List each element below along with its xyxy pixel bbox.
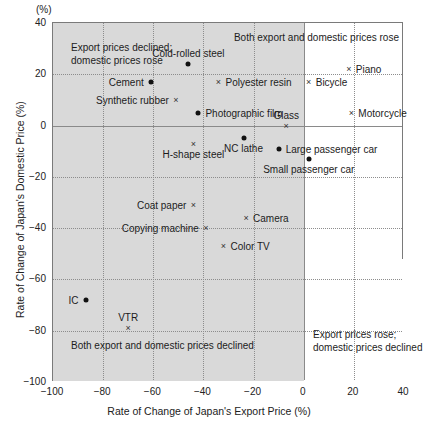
data-point-marker: ×	[242, 214, 250, 222]
x-axis-title: Rate of Change of Japan's Export Price (…	[0, 405, 418, 417]
data-point-label: H-shape steel	[163, 149, 225, 160]
data-point-marker: ×	[305, 78, 313, 86]
data-point-label: Motorcycle	[358, 107, 406, 118]
quadrant-note-line: domestic prices rose	[71, 54, 172, 67]
y-gridline	[53, 74, 402, 75]
x-gridline	[103, 23, 104, 380]
data-point-marker: ×	[124, 324, 132, 332]
y-axis-unit-label: (%)	[36, 4, 52, 15]
quadrant-note-bottom-left: Both export and domestic prices declined	[71, 339, 254, 352]
y-tick-label: 0	[6, 119, 46, 130]
data-point-marker	[241, 136, 246, 141]
data-point-label: Glass	[273, 110, 299, 121]
quadrant-note-line: Export prices declined;	[71, 41, 172, 54]
data-point-marker: ×	[347, 109, 355, 117]
x-tick-label: −60	[144, 386, 161, 397]
y-tick-label: −40	[6, 222, 46, 233]
y-tick-label: −20	[6, 170, 46, 181]
data-point-label: Color TV	[230, 241, 269, 252]
x-tick-label: −100	[41, 386, 64, 397]
data-point-marker	[186, 62, 191, 67]
data-point-marker	[83, 297, 88, 302]
y-gridline	[53, 279, 402, 280]
data-point-label: Synthetic rubber	[96, 94, 169, 105]
data-point-marker: ×	[282, 122, 290, 130]
data-point-marker	[276, 146, 281, 151]
data-point-marker: ×	[214, 78, 222, 86]
quadrant-note-top-left: Export prices declined;domestic prices r…	[71, 41, 172, 67]
data-point-marker: ×	[202, 224, 210, 232]
y-axis-title: Rate of Change of Japan's Domestic Price…	[14, 101, 26, 318]
data-point-label: VTR	[118, 312, 138, 323]
plot-area: Cold-rolled steel×PianoCement×Polyester …	[52, 22, 403, 381]
data-point-label: Copying machine	[122, 223, 199, 234]
x-tick-label: 40	[397, 386, 408, 397]
data-point-label: Coat paper	[137, 200, 186, 211]
y-gridline	[53, 177, 402, 178]
data-point-marker	[306, 156, 311, 161]
x-gridline	[203, 23, 204, 380]
quadrant-note-line: Export prices rose;	[313, 328, 423, 341]
data-point-label: Bicycle	[316, 76, 348, 87]
data-point-label: Cement	[109, 76, 144, 87]
x-zero-line	[304, 23, 305, 380]
quadrant-note-line: Both export and domestic prices declined	[71, 339, 254, 352]
data-point-label: Piano	[356, 64, 382, 75]
y-tick-label: −60	[6, 273, 46, 284]
x-tick-label: −80	[94, 386, 111, 397]
x-tick-label: −40	[194, 386, 211, 397]
data-point-marker: ×	[345, 65, 353, 73]
data-point-marker	[196, 110, 201, 115]
x-tick-label: −20	[244, 386, 261, 397]
data-point-label: NC lathe	[224, 143, 263, 154]
quadrant-note-line: Both export and domestic prices rose	[234, 31, 399, 44]
x-tick-label: 20	[347, 386, 358, 397]
data-point-label: IC	[69, 294, 79, 305]
quadrant-note-top-right: Both export and domestic prices rose	[234, 31, 399, 44]
data-point-marker: ×	[189, 201, 197, 209]
data-point-label: Small passenger car	[263, 164, 354, 175]
x-gridline	[354, 23, 355, 380]
y-tick-label: −100	[6, 376, 46, 387]
y-zero-line	[53, 126, 402, 127]
quadrant-note-line: domestic prices declined	[313, 341, 423, 354]
data-point-label: Polyester resin	[225, 76, 291, 87]
data-point-label: Large passenger car	[286, 143, 378, 154]
data-point-marker: ×	[189, 140, 197, 148]
y-tick-label: 20	[6, 68, 46, 79]
data-point-label: Camera	[253, 212, 289, 223]
y-tick-label: −80	[6, 324, 46, 335]
data-point-marker: ×	[172, 96, 180, 104]
x-tick-label: 0	[300, 386, 306, 397]
data-point-label: Photographic film	[205, 107, 282, 118]
quadrant-note-bottom-right: Export prices rose;domestic prices decli…	[313, 328, 423, 354]
y-gridline	[53, 228, 402, 229]
y-tick-label: 40	[6, 17, 46, 28]
data-point-marker: ×	[219, 242, 227, 250]
data-point-marker	[148, 79, 153, 84]
